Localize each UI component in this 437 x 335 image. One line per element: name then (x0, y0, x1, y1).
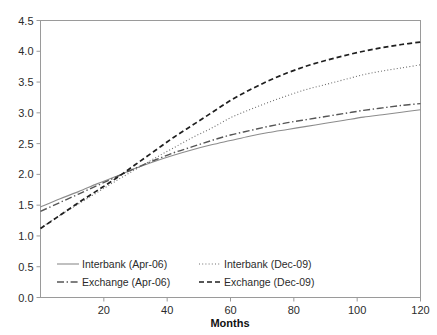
legend-label-1: Interbank (Dec-09) (224, 258, 312, 270)
x-tick-label: 40 (161, 304, 173, 316)
y-axis-tick-group: 0.00.51.01.52.02.53.03.54.04.5 (18, 15, 40, 304)
chart-figure: 0.00.51.01.52.02.53.03.54.04.5 204060801… (0, 0, 437, 335)
x-tick-label: 80 (288, 304, 300, 316)
x-axis-title: Months (210, 317, 249, 329)
y-tick-label: 1.0 (18, 230, 33, 242)
y-tick-label: 2.5 (18, 138, 33, 150)
series-line-2 (41, 65, 421, 228)
line-chart: 0.00.51.01.52.02.53.03.54.04.5 204060801… (0, 0, 437, 335)
chart-legend: Interbank (Apr-06)Interbank (Dec-09)Exch… (57, 258, 314, 288)
x-tick-label: 120 (411, 304, 429, 316)
x-tick-label: 100 (348, 304, 366, 316)
x-axis-tick-group: 20406080100120 (98, 298, 430, 316)
y-tick-label: 4.5 (18, 15, 33, 27)
y-tick-label: 2.0 (18, 168, 33, 180)
series-group (41, 42, 421, 229)
legend-label-2: Exchange (Apr-06) (82, 276, 170, 288)
y-tick-label: 0.5 (18, 261, 33, 273)
y-tick-label: 4.0 (18, 45, 33, 57)
legend-label-0: Interbank (Apr-06) (82, 258, 167, 270)
y-tick-label: 1.5 (18, 199, 33, 211)
series-line-0 (41, 110, 421, 207)
legend-label-3: Exchange (Dec-09) (224, 276, 314, 288)
x-tick-label: 60 (224, 304, 236, 316)
plot-frame (41, 21, 421, 298)
y-tick-label: 3.0 (18, 107, 33, 119)
series-line-1 (41, 104, 421, 212)
x-tick-label: 20 (98, 304, 110, 316)
y-tick-label: 3.5 (18, 76, 33, 88)
y-tick-label: 0.0 (18, 292, 33, 304)
